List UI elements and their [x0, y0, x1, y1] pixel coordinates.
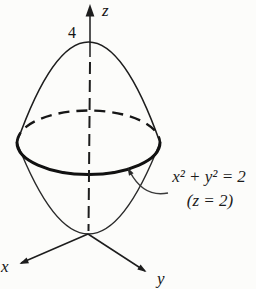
z-axis-tick-4: 4 — [68, 24, 76, 41]
figure-canvas: z 4 x y x² + y² = 2 (z = 2) — [0, 0, 256, 289]
figure-background — [0, 0, 256, 289]
annotation-equation: x² + y² = 2 — [171, 167, 246, 186]
annotation-condition: (z = 2) — [187, 191, 234, 210]
paraboloid-solid-figure: z 4 x y x² + y² = 2 (z = 2) — [0, 0, 256, 289]
y-axis-label: y — [155, 269, 165, 288]
x-axis-label: x — [0, 257, 9, 276]
z-axis-label: z — [101, 1, 109, 20]
